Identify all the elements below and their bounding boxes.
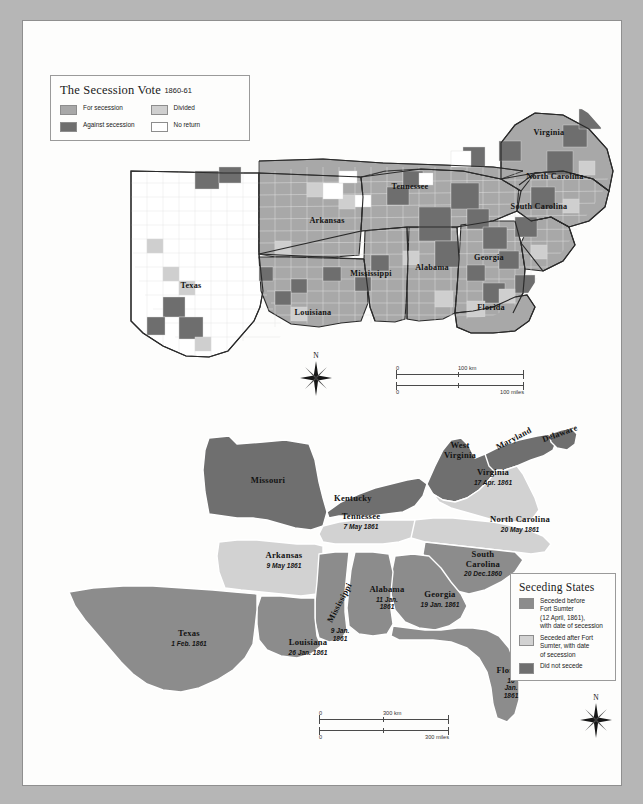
state-tennessee — [319, 520, 415, 544]
legend-swatch-for-secession — [60, 105, 77, 115]
scale-miles-value: 100 miles — [500, 389, 524, 395]
scale-bar-bottom: 0 300 km 0 300 miles — [319, 713, 451, 741]
state-mississippi — [315, 552, 349, 642]
screenshot-canvas: Virginia North Carolina South Carolina T… — [0, 0, 643, 804]
state-arkansas — [217, 540, 323, 596]
scale-km-row: 0 300 km — [319, 713, 451, 726]
scale-bar-top: 0 100 km 0 100 miles — [396, 368, 526, 396]
legend-title: Seceding States — [519, 581, 607, 593]
compass-north-label: N — [313, 351, 318, 360]
legend-swatch-seceded-after-sumter — [519, 635, 534, 646]
legend-title: The Secession Vote 1860-61 — [60, 83, 240, 98]
legend-swatch-against-secession — [60, 122, 77, 132]
scale-km-value: 300 km — [383, 710, 401, 716]
scale-miles-zero: 0 — [319, 734, 322, 740]
scale-miles-row: 0 100 miles — [396, 383, 526, 396]
legend-item-for-secession: For secession — [60, 104, 135, 115]
legend-item-seceded-after-sumter: Seceded after Fort Sumter, with date of … — [519, 634, 607, 659]
legend-item-did-not-secede: Did not secede — [519, 662, 607, 674]
compass-rose-top: N — [299, 352, 333, 398]
state-bodies — [131, 113, 613, 357]
compass-north-label: N — [593, 693, 598, 702]
scale-miles-row: 0 300 miles — [319, 728, 451, 741]
scale-miles-value: 300 miles — [425, 734, 449, 740]
state-florida — [391, 626, 519, 722]
legend-item-seceded-before-sumter: Seceded before Fort Sumter (12 April, 18… — [519, 597, 607, 631]
legend-item-divided: Divided — [151, 104, 201, 115]
secession-vote-legend: The Secession Vote 1860-61 For secession… — [50, 75, 250, 141]
legend-swatch-divided — [151, 105, 168, 115]
compass-rose-bottom: N — [579, 694, 613, 740]
scale-miles-zero: 0 — [396, 389, 399, 395]
state-louisiana — [257, 596, 321, 658]
state-alabama — [347, 552, 393, 636]
legend-swatch-no-return — [151, 122, 168, 132]
state-kentucky — [327, 478, 427, 518]
state-maryland — [485, 434, 557, 472]
map-sheet: Virginia North Carolina South Carolina T… — [22, 20, 622, 786]
legend-swatch-seceded-before-sumter — [519, 598, 534, 609]
scale-km-value: 100 km — [458, 365, 476, 371]
legend-item-no-return: No return — [151, 121, 201, 132]
state-texas — [69, 586, 257, 692]
legend-swatch-did-not-secede — [519, 663, 534, 674]
state-missouri — [203, 436, 327, 530]
seceding-states-legend: Seceding States Seceded before Fort Sumt… — [510, 573, 616, 681]
scale-km-row: 0 100 km — [396, 368, 526, 381]
legend-item-against-secession: Against secession — [60, 121, 135, 132]
